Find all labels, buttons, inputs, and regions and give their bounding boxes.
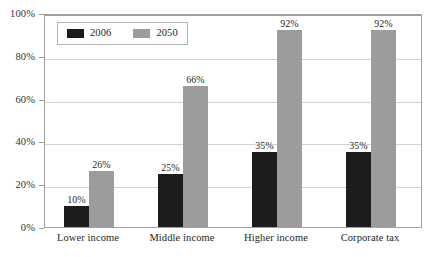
legend-label: 2006 [90, 28, 111, 39]
y-tick-label: 0% [21, 223, 35, 234]
y-tick-label: 80% [15, 52, 35, 63]
bar-2050-lower-income[interactable] [89, 171, 114, 227]
y-tick-label: 40% [15, 137, 35, 148]
x-axis: Lower income Middle income Higher income… [44, 232, 422, 252]
gridline [45, 102, 421, 103]
y-tick-label: 20% [15, 180, 35, 191]
legend-label: 2050 [156, 28, 177, 39]
bar-2006-lower-income[interactable] [64, 206, 89, 227]
bar-2050-middle-income[interactable] [183, 86, 208, 227]
bar-value: 92% [371, 19, 396, 29]
x-tick-label-higher-income: Higher income [244, 232, 308, 245]
legend-item-2006[interactable]: 2006 [67, 28, 111, 39]
gridline [45, 59, 421, 60]
bar-value: 35% [252, 141, 277, 151]
x-tick-label-lower-income: Lower income [57, 232, 119, 245]
bar-value: 25% [158, 163, 183, 173]
y-tick-label: 60% [15, 94, 35, 105]
x-tick-label-middle-income: Middle income [149, 232, 214, 245]
y-axis: 100% 80% 60% 40% 20% 0% [0, 0, 44, 257]
bar-2050-higher-income[interactable] [277, 30, 302, 227]
bar-value: 92% [277, 19, 302, 29]
bar-2006-corporate-tax[interactable] [346, 152, 371, 227]
y-tick-mark [39, 228, 44, 229]
bar-chart: 100% 80% 60% 40% 20% 0% 10% 26% 25% 66% … [0, 0, 432, 257]
legend-item-2050[interactable]: 2050 [133, 28, 177, 39]
legend-swatch-icon [67, 29, 84, 38]
bar-2006-middle-income[interactable] [158, 174, 183, 228]
bar-value: 35% [346, 141, 371, 151]
y-tick-label: 100% [10, 9, 35, 20]
bar-value: 26% [89, 160, 114, 170]
bar-value: 10% [64, 195, 89, 205]
bar-2006-higher-income[interactable] [252, 152, 277, 227]
legend-swatch-icon [133, 29, 150, 38]
plot-area: 10% 26% 25% 66% 35% 92% 35% 92% [44, 14, 422, 228]
bar-2050-corporate-tax[interactable] [371, 30, 396, 227]
bar-value: 66% [183, 75, 208, 85]
x-tick-label-corporate-tax: Corporate tax [341, 232, 400, 245]
chart-legend: 2006 2050 [57, 22, 188, 45]
